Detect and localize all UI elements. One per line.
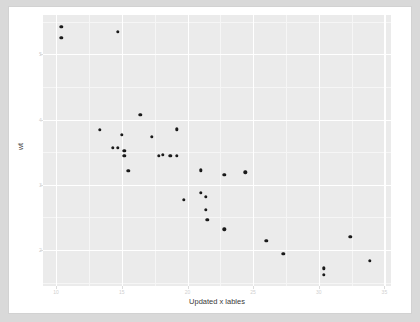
data-point [199, 169, 202, 172]
y-axis-label: wt [17, 143, 24, 150]
gridline-minor-horizontal [43, 283, 391, 284]
gridline-major-vertical [56, 15, 57, 286]
data-point [150, 135, 153, 138]
gridline-minor-vertical [155, 15, 156, 286]
data-point [116, 146, 119, 149]
gridline-minor-vertical [89, 15, 90, 286]
data-point [222, 173, 225, 176]
data-point [182, 198, 185, 201]
gridline-major-horizontal [43, 54, 391, 55]
data-point [322, 267, 325, 270]
data-point [264, 239, 267, 242]
gridline-minor-vertical [352, 15, 353, 286]
x-tick-mark [253, 286, 254, 289]
x-tick-label: 30 [316, 289, 322, 295]
data-point [175, 154, 178, 157]
x-tick-label: 15 [119, 289, 125, 295]
x-tick-mark [56, 286, 57, 289]
data-point [199, 191, 202, 194]
data-point [111, 146, 114, 149]
x-tick-mark [122, 286, 123, 289]
data-point [282, 252, 285, 255]
x-tick-label: 35 [382, 289, 388, 295]
gridline-minor-vertical [286, 15, 287, 286]
data-point [98, 128, 101, 131]
gridline-major-vertical [188, 15, 189, 286]
data-point [368, 259, 371, 262]
gridline-major-horizontal [43, 120, 391, 121]
data-point [322, 273, 325, 276]
data-point [204, 208, 207, 211]
x-tick-mark [319, 286, 320, 289]
gridline-minor-horizontal [43, 152, 391, 153]
data-point [205, 218, 208, 221]
data-point [60, 25, 63, 28]
gridline-minor-horizontal [43, 217, 391, 218]
data-point [127, 169, 130, 172]
data-point [243, 171, 246, 174]
y-tick-mark [40, 250, 43, 251]
data-point [60, 36, 63, 39]
y-tick-mark [40, 185, 43, 186]
data-point [138, 113, 141, 116]
data-point [123, 154, 126, 157]
data-point [157, 154, 160, 157]
x-tick-mark [188, 286, 189, 289]
data-point [204, 195, 207, 198]
data-point [161, 153, 164, 156]
gridline-major-vertical [319, 15, 320, 286]
gridline-minor-horizontal [43, 87, 391, 88]
data-point [169, 154, 172, 157]
data-point [222, 227, 225, 230]
x-tick-label: 20 [185, 289, 191, 295]
gridline-major-horizontal [43, 185, 391, 186]
gridline-major-vertical [253, 15, 254, 286]
x-tick-label: 10 [53, 289, 59, 295]
gridline-major-vertical [384, 15, 385, 286]
data-point [116, 30, 119, 33]
gridline-minor-horizontal [43, 22, 391, 23]
chart-card: wt Updated x lables 1015202530355432 [8, 6, 412, 314]
x-tick-mark [384, 286, 385, 289]
x-tick-label: 25 [250, 289, 256, 295]
plot-panel [43, 15, 391, 286]
x-axis-label: Updated x lables [43, 297, 391, 306]
gridline-minor-vertical [220, 15, 221, 286]
gridline-major-horizontal [43, 250, 391, 251]
scatter-plot: wt Updated x lables 1015202530355432 [9, 7, 413, 315]
y-tick-mark [40, 54, 43, 55]
data-point [175, 128, 178, 131]
y-tick-mark [40, 120, 43, 121]
